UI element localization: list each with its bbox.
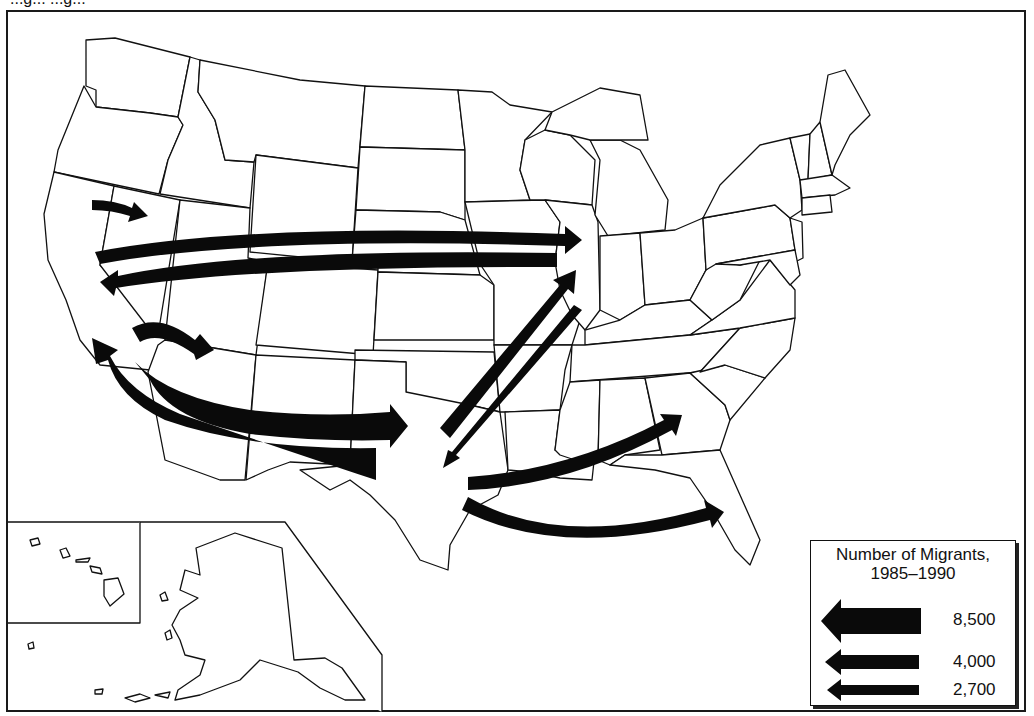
state-connecticut (802, 195, 832, 215)
hawaii-island-3 (76, 558, 90, 562)
state-north-dakota (360, 86, 465, 150)
legend-label-large: 8,500 (953, 610, 996, 630)
state-washington (86, 38, 190, 117)
aleutian-1 (28, 642, 34, 649)
aleutian-2 (95, 689, 103, 694)
state-michigan-up (545, 88, 648, 140)
legend-title-line1: Number of Migrants, (811, 545, 1015, 564)
legend-title-line2: 1985–1990 (811, 564, 1015, 583)
state-indiana (600, 233, 645, 320)
state-montana (198, 60, 365, 168)
legend-row-large: 8,500 (821, 599, 1011, 643)
state-kansas (374, 272, 494, 340)
state-michigan (590, 140, 668, 236)
state-wisconsin (520, 130, 595, 205)
state-colorado (256, 262, 378, 355)
legend: Number of Migrants, 1985–1990 8,500 4,00… (810, 540, 1016, 706)
aleutian-3 (125, 694, 150, 702)
legend-row-small: 2,700 (821, 679, 1011, 701)
aleutian-4 (155, 692, 170, 698)
state-south-dakota (356, 147, 465, 220)
legend-label-medium: 4,000 (953, 652, 996, 672)
legend-arrow-medium-icon (821, 649, 931, 675)
legend-row-medium: 4,000 (821, 649, 1011, 675)
inset-layer (8, 522, 382, 712)
state-massachusetts (800, 175, 850, 198)
legend-title: Number of Migrants, 1985–1990 (811, 545, 1015, 583)
state-new-york (703, 138, 802, 218)
hawaii-island-1 (30, 538, 40, 546)
states-layer (44, 38, 870, 570)
alaska-island-2 (165, 630, 172, 640)
legend-label-small: 2,700 (953, 680, 996, 700)
state-florida (610, 450, 760, 565)
legend-arrow-small-icon (821, 679, 931, 701)
flow-arrow-tx-to-fl (462, 497, 724, 538)
legend-arrow-large-icon (821, 599, 931, 643)
